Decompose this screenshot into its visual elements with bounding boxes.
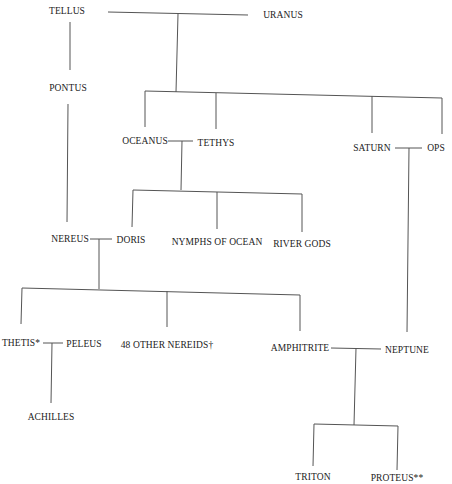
descent-line-saturn-ops-neptune	[407, 148, 409, 332]
node-peleus: PELEUS	[66, 339, 101, 350]
node-ops: OPS	[427, 143, 445, 154]
node-uranus: URANUS	[263, 10, 303, 21]
drop-line-triton	[313, 424, 314, 466]
drop-line-proteus	[397, 426, 398, 470]
descent-line-thetis-peleus-achilles	[51, 343, 52, 403]
node-nereus: NEREUS	[51, 234, 89, 245]
node-oceanus: OCEANUS	[122, 136, 168, 147]
node-saturn: SATURN	[353, 143, 391, 154]
drop-line-doris	[132, 190, 133, 227]
node-doris: DORIS	[116, 235, 145, 246]
node-triton: TRITON	[295, 472, 330, 483]
node-other-nereids: 48 OTHER NEREIDS†	[121, 340, 213, 351]
drop-line-thetis	[21, 288, 22, 324]
node-tethys: TETHYS	[197, 138, 234, 149]
descent-line-oceanus-tethys-trunk	[181, 141, 182, 190]
node-nymphs-of-ocean: NYMPHS OF OCEAN	[172, 237, 263, 248]
descent-line-pontus-nereus	[67, 104, 68, 222]
children-bar-titans	[145, 91, 442, 98]
node-tellus: TELLUS	[49, 6, 85, 17]
children-bar-nereids	[22, 288, 300, 295]
descent-line-tellus-uranus-trunk	[176, 14, 178, 92]
node-pontus: PONTUS	[49, 83, 87, 94]
descent-line-amphitrite-neptune-trunk	[354, 348, 356, 425]
node-neptune: NEPTUNE	[385, 345, 429, 356]
children-bar-sons-of-neptune	[314, 424, 398, 426]
node-thetis: THETIS*	[2, 338, 40, 349]
node-proteus: PROTEUS**	[371, 473, 424, 484]
node-achilles: ACHILLES	[28, 412, 75, 423]
node-river-gods: RIVER GODS	[273, 239, 331, 250]
node-amphitrite: AMPHITRITE	[271, 343, 330, 354]
